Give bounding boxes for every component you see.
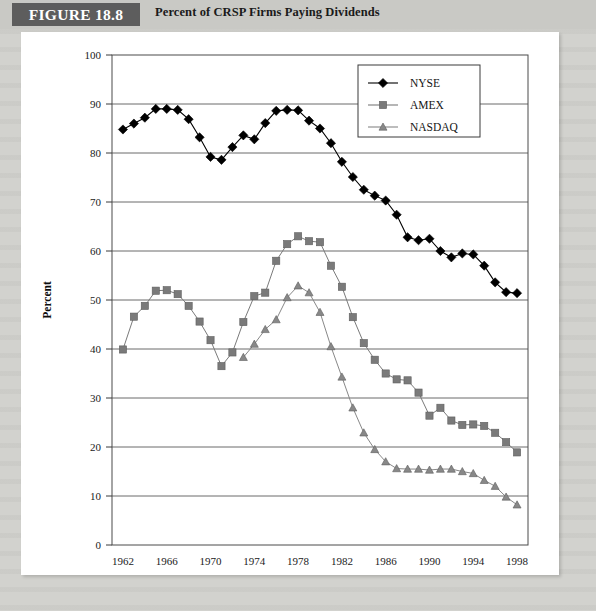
x-tick-label-1962: 1962 [112,555,134,567]
y-tick-label-40: 40 [90,343,102,355]
data-point-marker [207,337,214,344]
data-point-marker [240,318,247,325]
x-tick-label-1974: 1974 [243,555,266,567]
chart-canvas: 0102030405060708090100 19621966197019741… [21,32,559,575]
data-point-marker [338,283,345,290]
y-tick-label-20: 20 [90,441,102,453]
x-tick-label-1982: 1982 [331,555,353,567]
y-axis-title: Percent [41,281,53,319]
data-point-marker [459,421,466,428]
data-point-marker [295,233,302,240]
data-point-marker [393,376,400,383]
data-point-marker [305,238,312,245]
data-point-marker [229,349,236,356]
data-point-marker [426,412,433,419]
data-point-marker [492,429,499,436]
data-point-marker [130,313,137,320]
y-tick-label-80: 80 [90,147,102,159]
data-point-marker [382,370,389,377]
legend-label-amex: AMEX [410,99,445,111]
x-tick-label-1998: 1998 [506,555,529,567]
data-point-marker [481,422,488,429]
data-point-marker [218,363,225,370]
data-point-marker [174,291,181,298]
data-point-marker [448,417,455,424]
figure-number-badge: FIGURE 18.8 [12,3,140,26]
figure-header-bar: FIGURE 18.8 Percent of CRSP Firms Paying… [0,0,596,29]
x-tick-label-1986: 1986 [375,555,398,567]
data-point-marker [470,421,477,428]
data-point-marker [185,302,192,309]
data-point-marker [360,340,367,347]
legend-label-nasdaq: NASDAQ [410,121,459,133]
data-point-marker [404,377,411,384]
data-point-marker [273,257,280,264]
line-chart: 0102030405060708090100 19621966197019741… [21,32,559,575]
data-point-marker [152,287,159,294]
legend-label-nyse: NYSE [410,77,440,89]
data-point-marker [415,389,422,396]
x-tick-label-1990: 1990 [418,555,441,567]
data-point-marker [262,289,269,296]
figure-title: Percent of CRSP Firms Paying Dividends [155,5,380,20]
x-tick-label-1994: 1994 [462,555,485,567]
y-tick-label-100: 100 [85,49,102,61]
y-tick-label-0: 0 [96,539,102,551]
x-tick-label-1966: 1966 [156,555,179,567]
y-tick-label-30: 30 [90,392,102,404]
y-tick-label-70: 70 [90,196,102,208]
data-point-marker [349,314,356,321]
data-point-marker [196,318,203,325]
y-tick-label-60: 60 [90,245,102,257]
y-tick-label-10: 10 [90,490,102,502]
data-point-marker [251,292,258,299]
data-point-marker [437,404,444,411]
data-point-marker [371,356,378,363]
data-point-marker [163,287,170,294]
data-point-marker [503,439,510,446]
data-point-marker [284,241,291,248]
x-tick-label-1978: 1978 [287,555,310,567]
figure-panel: 0102030405060708090100 19621966197019741… [21,32,559,575]
data-point-marker [141,302,148,309]
data-point-marker [513,449,520,456]
x-tick-label-1970: 1970 [200,555,223,567]
legend-marker-amex [379,101,386,108]
y-tick-label-90: 90 [90,98,102,110]
data-point-marker [119,346,126,353]
y-tick-label-50: 50 [90,294,102,306]
chart-legend: NYSEAMEXNASDAQ [358,65,480,137]
x-axis-title: Year [309,573,332,575]
data-point-marker [316,239,323,246]
data-point-marker [327,262,334,269]
